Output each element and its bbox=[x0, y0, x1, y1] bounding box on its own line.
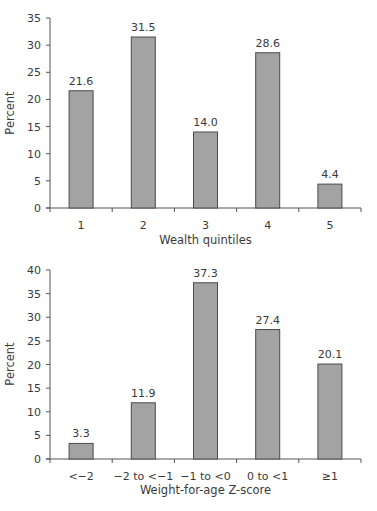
charts-canvas: 0510152025303521.6131.5214.0328.644.45We… bbox=[0, 0, 377, 511]
y-tick-label: 0 bbox=[34, 202, 41, 215]
x-category-label: 5 bbox=[326, 219, 333, 232]
y-tick-label: 15 bbox=[27, 382, 41, 395]
weight-for-age-chart: 05101520253035403.3<−211.9−2 to <−137.3−… bbox=[3, 264, 361, 497]
bar bbox=[131, 403, 155, 459]
bar-value-label: 20.1 bbox=[318, 348, 343, 361]
bar-value-label: 27.4 bbox=[255, 314, 280, 327]
x-category-label: <−2 bbox=[68, 470, 93, 483]
wealth-quintiles-chart: 0510152025303521.6131.5214.0328.644.45We… bbox=[3, 12, 361, 247]
x-category-label: −2 to <−1 bbox=[113, 470, 173, 483]
y-tick-label: 40 bbox=[27, 264, 41, 277]
bar bbox=[194, 283, 218, 459]
bar-value-label: 11.9 bbox=[131, 387, 156, 400]
y-axis-title: Percent bbox=[3, 342, 17, 386]
bar bbox=[318, 364, 342, 459]
y-tick-label: 15 bbox=[27, 121, 41, 134]
y-tick-label: 30 bbox=[27, 311, 41, 324]
y-tick-label: 10 bbox=[27, 406, 41, 419]
y-tick-label: 0 bbox=[34, 453, 41, 466]
x-category-label: 2 bbox=[140, 219, 147, 232]
bar bbox=[69, 443, 93, 459]
bar bbox=[256, 53, 280, 208]
x-axis-title: Wealth quintiles bbox=[159, 233, 252, 247]
bar bbox=[256, 330, 280, 459]
bar bbox=[69, 91, 93, 208]
x-category-label: 3 bbox=[202, 219, 209, 232]
x-category-label: 4 bbox=[264, 219, 271, 232]
x-category-label: −1 to <0 bbox=[180, 470, 230, 483]
bar-value-label: 31.5 bbox=[131, 21, 156, 34]
y-tick-label: 25 bbox=[27, 335, 41, 348]
y-tick-label: 25 bbox=[27, 66, 41, 79]
bar-value-label: 37.3 bbox=[193, 267, 218, 280]
y-tick-label: 5 bbox=[34, 429, 41, 442]
bar-value-label: 4.4 bbox=[321, 168, 339, 181]
x-category-label: 0 to <1 bbox=[247, 470, 288, 483]
y-tick-label: 5 bbox=[34, 175, 41, 188]
bar-value-label: 21.6 bbox=[69, 75, 94, 88]
bar-value-label: 3.3 bbox=[72, 427, 90, 440]
bar bbox=[131, 37, 155, 208]
bar bbox=[194, 132, 218, 208]
x-category-label: ≥1 bbox=[322, 470, 338, 483]
bar-value-label: 14.0 bbox=[193, 116, 218, 129]
x-category-label: 1 bbox=[78, 219, 85, 232]
y-tick-label: 35 bbox=[27, 288, 41, 301]
x-axis-title: Weight-for-age Z-score bbox=[140, 483, 271, 497]
bar bbox=[318, 184, 342, 208]
y-axis-title: Percent bbox=[3, 91, 17, 135]
y-tick-label: 20 bbox=[27, 359, 41, 372]
y-tick-label: 10 bbox=[27, 148, 41, 161]
bar-value-label: 28.6 bbox=[255, 37, 280, 50]
y-tick-label: 35 bbox=[27, 12, 41, 25]
y-tick-label: 20 bbox=[27, 93, 41, 106]
y-tick-label: 30 bbox=[27, 39, 41, 52]
